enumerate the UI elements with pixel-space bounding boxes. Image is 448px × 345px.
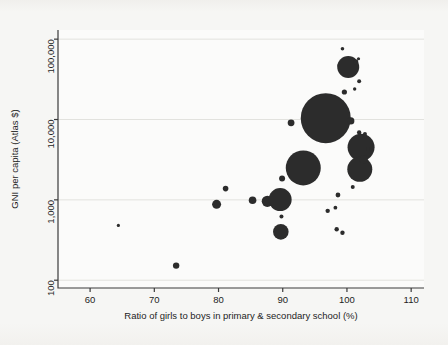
svg-text:110: 110 xyxy=(404,294,419,305)
svg-text:80: 80 xyxy=(213,294,224,305)
y-axis-ticks: 1001,00010,000100,000 xyxy=(45,39,58,296)
svg-text:60: 60 xyxy=(85,294,96,305)
scatter-chart: 1001,00010,000100,000 60708090100110 GNI… xyxy=(0,0,448,345)
svg-text:100: 100 xyxy=(339,294,355,305)
svg-text:10,000: 10,000 xyxy=(45,120,56,149)
svg-text:70: 70 xyxy=(149,294,160,305)
x-axis-title: Ratio of girls to boys in primary & seco… xyxy=(124,310,357,321)
svg-text:90: 90 xyxy=(277,294,288,305)
x-axis-ticks: 60708090100110 xyxy=(85,288,419,305)
plot-area-background xyxy=(58,30,424,288)
svg-text:1,000: 1,000 xyxy=(45,200,56,224)
svg-text:100,000: 100,000 xyxy=(45,39,56,73)
y-axis-title: GNI per capita (Atlas $) xyxy=(9,109,20,208)
svg-text:100: 100 xyxy=(45,280,56,296)
